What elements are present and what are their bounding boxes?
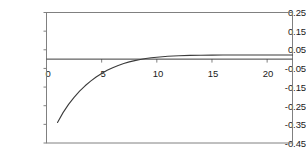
chart-container: 0.25 0.15 0.05 -0.05 -0.15 -0.25 -0.35 -…: [0, 0, 306, 157]
data-series-curve: [58, 55, 293, 123]
x-axis-ticks: [47, 59, 268, 63]
plot-frame: [47, 13, 293, 144]
plot-area: [0, 0, 306, 157]
